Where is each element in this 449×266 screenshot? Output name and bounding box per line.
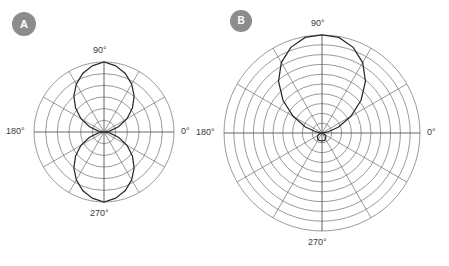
axis-label-0-b: 0° — [427, 127, 436, 137]
grid-spoke — [237, 84, 322, 133]
grid-spoke — [273, 133, 322, 218]
figure-container: A 90° 0° 270° 180° B 90° 0° 270° 180° — [0, 0, 449, 266]
grid-spoke — [43, 132, 104, 167]
grid-spoke — [322, 133, 371, 218]
axis-label-0-a: 0° — [181, 126, 190, 136]
panel-a: A 90° 0° 270° 180° — [0, 0, 224, 266]
panel-b: B 90° 0° 270° 180° — [224, 0, 449, 266]
axis-label-90-b: 90° — [311, 18, 325, 28]
grid-spoke — [322, 84, 407, 133]
grid-spoke — [43, 97, 104, 132]
axis-label-180-a: 180° — [6, 126, 25, 136]
polar-plot-a — [0, 0, 224, 266]
grid-spoke — [322, 133, 407, 182]
grid-spoke — [104, 97, 165, 132]
grid-spoke — [237, 133, 322, 182]
grid-spoke — [104, 132, 165, 167]
polar-plot-b — [224, 0, 449, 266]
axis-label-90-a: 90° — [93, 45, 107, 55]
axis-label-270-b: 270° — [308, 237, 327, 247]
axis-label-180-b: 180° — [196, 127, 215, 137]
axis-label-270-a: 270° — [90, 208, 109, 218]
